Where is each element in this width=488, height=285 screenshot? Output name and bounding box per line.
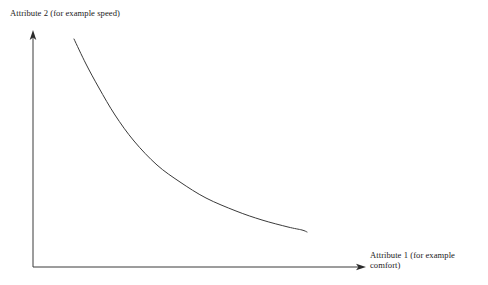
y-axis-label: Attribute 2 (for example speed) bbox=[10, 8, 120, 18]
x-axis-label: Attribute 1 (for example comfort) bbox=[370, 250, 482, 271]
tradeoff-curve-figure: Attribute 2 (for example speed) Attribut… bbox=[0, 0, 488, 285]
plot-canvas bbox=[0, 0, 488, 285]
tradeoff-curve-line bbox=[74, 39, 307, 232]
y-axis-group bbox=[30, 30, 37, 267]
x-axis-group bbox=[33, 264, 366, 271]
